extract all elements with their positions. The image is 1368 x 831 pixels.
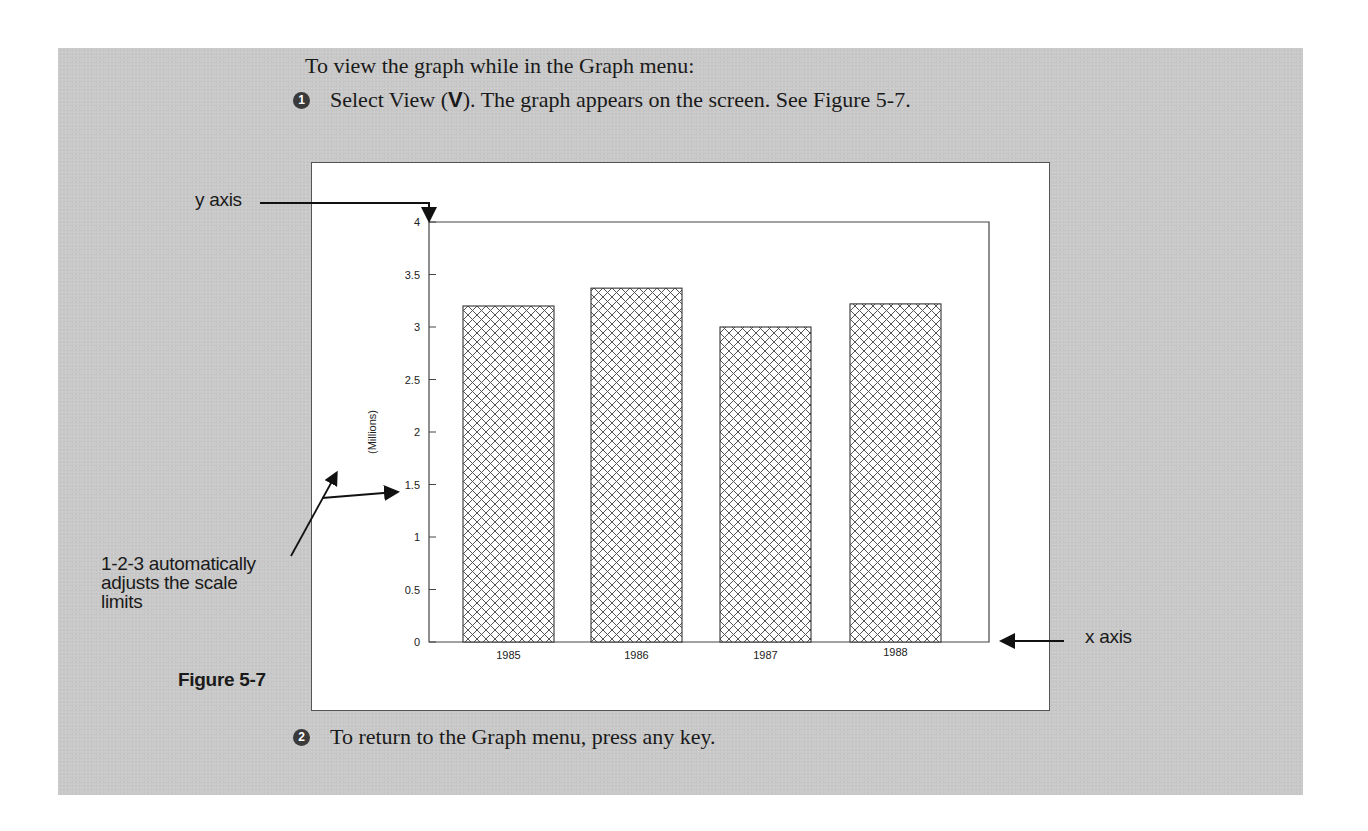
- scale-note-line-3: limits: [101, 592, 256, 611]
- step-2-text: To return to the Graph menu, press any k…: [330, 724, 716, 750]
- intro-text: To view the graph while in the Graph men…: [305, 53, 694, 79]
- y-axis-callout: y axis: [195, 190, 242, 209]
- step-1-text-after: ). The graph appears on the screen. See …: [463, 87, 911, 113]
- figure-caption: Figure 5-7: [178, 669, 266, 691]
- step-1-key: V: [448, 87, 463, 113]
- scale-limits-callout: 1-2-3 automatically adjusts the scale li…: [101, 554, 256, 611]
- x-axis-callout: x axis: [1085, 627, 1132, 646]
- step-1-text-before: Select View (: [330, 87, 448, 113]
- step-2: 2 To return to the Graph menu, press any…: [293, 724, 716, 750]
- scale-note-line-2: adjusts the scale: [101, 573, 256, 592]
- step-number-1-icon: 1: [293, 92, 310, 109]
- scale-note-line-1: 1-2-3 automatically: [101, 554, 256, 573]
- graph-screen: [311, 162, 1050, 711]
- step-number-2-icon: 2: [293, 729, 310, 746]
- step-1: 1 Select View (V). The graph appears on …: [293, 87, 911, 113]
